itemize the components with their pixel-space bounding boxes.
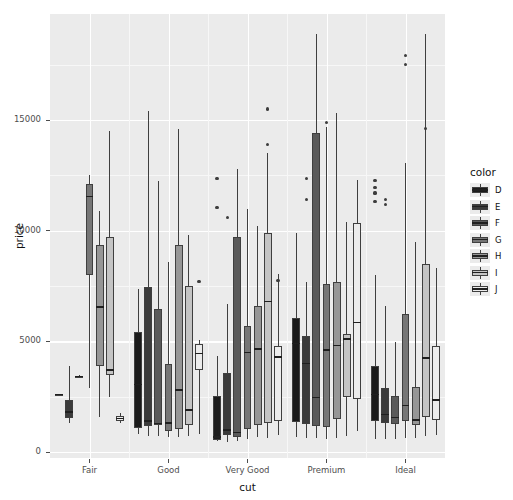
whisker-lower — [267, 423, 268, 438]
whisker-upper — [405, 163, 406, 314]
box — [264, 233, 272, 423]
whisker-lower — [415, 425, 416, 438]
whisker-lower — [138, 428, 139, 434]
outlier-point — [384, 198, 387, 201]
whisker-upper — [385, 306, 386, 388]
median-line — [55, 394, 63, 395]
legend-title: color — [470, 166, 496, 178]
box — [65, 400, 73, 418]
legend-whisker-lower — [480, 292, 481, 295]
median-line — [292, 343, 300, 344]
box — [292, 318, 300, 422]
legend-whisker-lower — [480, 243, 481, 246]
median-line — [264, 301, 272, 302]
whisker-lower — [346, 397, 347, 436]
whisker-upper — [278, 274, 279, 346]
box — [302, 336, 310, 425]
box — [432, 346, 440, 420]
box — [144, 287, 152, 426]
legend-whisker-lower — [480, 226, 481, 229]
whisker-lower — [178, 429, 179, 437]
legend-swatch-median — [472, 288, 488, 289]
whisker-upper — [296, 233, 297, 318]
box — [185, 286, 193, 425]
whisker-lower — [89, 275, 90, 388]
median-line — [312, 397, 320, 398]
median-line — [233, 432, 241, 433]
x-axis-tickmark — [89, 459, 90, 463]
box — [333, 282, 341, 420]
legend-item-label: G — [495, 236, 502, 245]
median-line — [154, 423, 162, 424]
whisker-upper — [99, 211, 100, 245]
whisker-lower — [357, 399, 358, 431]
y-axis-title: price — [13, 223, 25, 249]
box — [244, 326, 252, 429]
whisker-upper — [89, 175, 90, 184]
whisker-upper — [158, 181, 159, 309]
whisker-lower — [336, 419, 337, 438]
plot-panel — [50, 14, 445, 458]
y-axis-tick-label: 5000 — [0, 336, 41, 345]
y-axis-tick-label: 0 — [0, 447, 41, 456]
whisker-lower — [120, 421, 121, 424]
whisker-lower — [217, 440, 218, 442]
box — [323, 284, 331, 427]
x-axis-tick-label: Good — [124, 466, 214, 475]
whisker-upper — [306, 282, 307, 336]
outlier-point — [305, 198, 308, 201]
whisker-lower — [188, 425, 189, 435]
outlier-point — [325, 121, 328, 124]
outlier-point — [276, 279, 279, 282]
median-line — [213, 436, 221, 437]
whisker-upper — [217, 356, 218, 396]
outlier-point — [215, 206, 218, 209]
outlier-point — [373, 191, 376, 194]
median-line — [244, 352, 252, 353]
y-axis-tickmark — [46, 341, 50, 342]
box — [422, 264, 430, 417]
box — [312, 133, 320, 426]
median-line — [175, 389, 183, 390]
whisker-lower — [436, 420, 437, 435]
median-line — [165, 422, 173, 423]
whisker-upper — [69, 366, 70, 400]
median-line — [432, 399, 440, 400]
box — [381, 388, 389, 423]
whisker-lower — [316, 426, 317, 438]
box — [391, 396, 399, 425]
outlier-point — [373, 179, 376, 182]
y-axis-tick-label: 15000 — [0, 115, 41, 124]
whisker-lower — [425, 417, 426, 437]
legend-item-label: I — [495, 269, 498, 278]
box — [353, 223, 361, 399]
median-line — [422, 357, 430, 358]
whisker-lower — [99, 366, 100, 416]
whisker-upper — [436, 268, 437, 345]
legend-whisker-lower — [480, 259, 481, 262]
outlier-point — [226, 216, 229, 219]
median-line — [302, 363, 310, 364]
outlier-point — [266, 107, 269, 110]
whisker-upper — [395, 342, 396, 395]
whisker-lower — [375, 421, 376, 439]
outlier-point — [197, 280, 200, 283]
median-line — [254, 348, 262, 349]
box — [106, 237, 114, 374]
box — [233, 237, 241, 437]
outlier-point — [424, 127, 427, 130]
whisker-upper — [168, 262, 169, 364]
y-axis-tickmark — [46, 452, 50, 453]
box — [165, 364, 173, 430]
whisker-upper — [247, 209, 248, 326]
median-line — [96, 306, 104, 307]
x-axis-tickmark — [247, 459, 248, 463]
y-axis-tickmark — [46, 230, 50, 231]
whisker-lower — [227, 435, 228, 442]
median-line — [116, 418, 124, 419]
whisker-lower — [168, 431, 169, 437]
legend-swatch-median — [472, 222, 488, 223]
x-axis-tick-label: Fair — [45, 466, 135, 475]
outlier-point — [305, 177, 308, 180]
chart-root: 050001000015000FairGoodVery GoodPremiumI… — [0, 0, 513, 500]
